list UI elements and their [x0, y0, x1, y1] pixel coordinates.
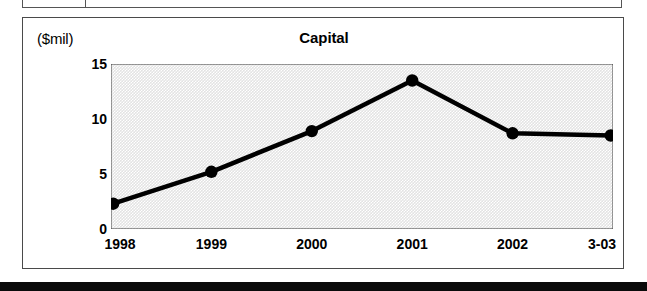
line-chart-svg	[111, 64, 613, 229]
x-tick-label: 2001	[397, 236, 428, 252]
data-point-markers	[111, 74, 613, 210]
table-cell-outline	[22, 0, 622, 8]
x-axis-tick-labels: 199819992000200120023-03	[111, 236, 613, 258]
y-tick-label: 0	[83, 221, 107, 237]
y-axis-tick-labels: 051015	[83, 64, 107, 229]
x-tick-label: 1998	[104, 236, 135, 252]
data-point-marker	[605, 129, 613, 141]
x-tick-label: 3-03	[588, 236, 616, 252]
clipped-table-row	[0, 0, 647, 12]
plot-wrapper: 051015 199819992000200120023-03	[83, 64, 613, 242]
axis-tick-marks	[111, 64, 613, 229]
axis-lines	[111, 64, 613, 229]
y-tick-label: 15	[83, 56, 107, 72]
data-point-marker	[111, 198, 119, 210]
bottom-black-rule	[0, 282, 647, 291]
chart-title: Capital	[23, 29, 625, 46]
table-column-divider	[85, 0, 86, 8]
data-point-marker	[306, 125, 318, 137]
x-tick-label: 2002	[497, 236, 528, 252]
data-point-marker	[406, 74, 418, 86]
x-tick-label: 1999	[196, 236, 227, 252]
chart-panel: ($mil) Capital 051015 199819992000200120…	[22, 17, 624, 269]
x-tick-label: 2000	[296, 236, 327, 252]
y-tick-label: 5	[83, 166, 107, 182]
data-point-marker	[506, 127, 518, 139]
data-point-marker	[205, 166, 217, 178]
y-tick-label: 10	[83, 111, 107, 127]
data-line	[113, 81, 611, 204]
